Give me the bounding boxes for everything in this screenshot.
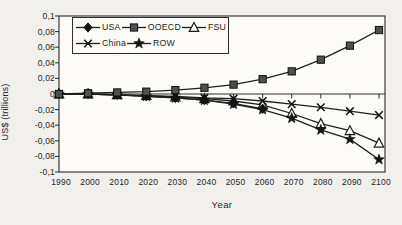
x-tick-label: 2020 <box>133 177 163 187</box>
y-tick-label: -0,1 <box>40 167 55 177</box>
y-tick-label: 0,08 <box>38 27 55 37</box>
usa-marker-icon <box>76 21 100 34</box>
x-tick-label: 2050 <box>221 177 251 187</box>
legend-item-fsu: FSU <box>182 21 226 34</box>
x-tick-label: 2080 <box>308 177 338 187</box>
figure: 0,10,080,060,040,020-0,02-0,04-0,06-0,08… <box>0 0 402 225</box>
y-tick-label: 0 <box>50 89 55 99</box>
y-axis-title: US$ (trillions) <box>0 76 10 148</box>
y-tick-label: 0,04 <box>38 58 55 68</box>
y-tick-label: 0,1 <box>43 11 55 21</box>
y-tick-label: -0,02 <box>35 105 55 115</box>
row-marker-icon <box>127 37 151 50</box>
legend-item-row: ROW <box>127 37 175 50</box>
y-tick-label: -0,06 <box>35 136 55 146</box>
legend-item-china: China <box>76 37 126 50</box>
legend-label: China <box>102 38 126 48</box>
ooecd-marker-icon <box>122 21 146 34</box>
legend: USAOOECDFSUChinaROW <box>72 17 229 54</box>
legend-row: ChinaROW <box>76 35 228 51</box>
x-tick-label: 2060 <box>250 177 280 187</box>
legend-label: ROW <box>153 38 175 48</box>
x-tick-label: 1990 <box>46 177 76 187</box>
legend-label: FSU <box>208 22 226 32</box>
legend-item-ooecd: OOECD <box>122 21 181 34</box>
fsu-marker-icon <box>182 21 206 34</box>
x-tick-label: 2100 <box>366 177 396 187</box>
x-axis-title: Year <box>182 199 262 210</box>
x-tick-label: 2030 <box>162 177 192 187</box>
y-tick-label: 0,06 <box>38 42 55 52</box>
x-tick-label: 2070 <box>279 177 309 187</box>
x-tick-label: 2090 <box>337 177 367 187</box>
china-marker-icon <box>76 37 100 50</box>
x-tick-label: 2010 <box>104 177 134 187</box>
x-tick-label: 2000 <box>75 177 105 187</box>
legend-item-usa: USA <box>76 21 121 34</box>
x-tick-label: 2040 <box>191 177 221 187</box>
legend-row: USAOOECDFSU <box>76 19 228 35</box>
legend-label: USA <box>102 22 121 32</box>
y-tick-label: 0,02 <box>38 73 55 83</box>
y-tick-label: -0,04 <box>35 120 55 130</box>
legend-label: OOECD <box>148 22 181 32</box>
y-tick-label: -0,08 <box>35 151 55 161</box>
